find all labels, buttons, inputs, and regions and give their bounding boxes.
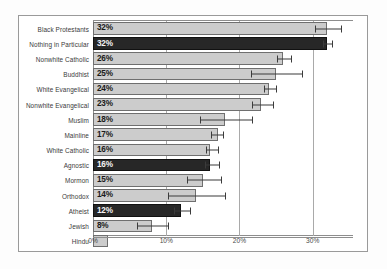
error-bar — [264, 89, 276, 90]
bar[interactable]: 24% — [93, 83, 269, 96]
bar-value-label: 25% — [97, 70, 113, 78]
x-tick-label: 20% — [233, 237, 246, 244]
category-label: Nonwhite Evangelical — [26, 101, 89, 108]
error-bar-cap-lower — [168, 192, 169, 199]
bar-row[interactable]: White Catholic16% — [93, 143, 369, 158]
error-bar-cap-lower — [211, 131, 212, 138]
x-tick-label: 10% — [160, 237, 173, 244]
bar-value-label: 32% — [97, 39, 113, 47]
error-bar — [206, 150, 218, 151]
bar-row[interactable]: Nonwhite Evangelical23% — [93, 97, 369, 112]
bar-row[interactable]: Orthodox14% — [93, 188, 369, 203]
error-bar-cap-upper — [221, 177, 222, 184]
category-label: Jewish — [69, 223, 89, 230]
bar-row[interactable]: Jewish8% — [93, 218, 369, 233]
bar-row[interactable]: Buddhist25% — [93, 67, 369, 82]
error-bar — [137, 226, 168, 227]
error-bar — [277, 58, 292, 59]
error-bar-cap-upper — [341, 25, 342, 32]
plot-wrapper: Black Protestants32%Nothing in Particula… — [19, 16, 367, 251]
error-bar — [211, 134, 223, 135]
error-bar-cap-lower — [137, 223, 138, 230]
error-bar-cap-upper — [252, 116, 253, 123]
bar-value-label: 15% — [97, 176, 113, 184]
error-bar — [168, 195, 225, 196]
error-bar — [252, 104, 273, 105]
bar-value-label: 14% — [97, 191, 113, 199]
category-label: Mainline — [64, 131, 89, 138]
bar-row[interactable]: Agnostic16% — [93, 158, 369, 173]
error-bar-cap-lower — [174, 207, 175, 214]
error-bar — [323, 43, 333, 44]
category-label: Nothing in Particular — [29, 40, 89, 47]
error-bar-cap-lower — [323, 40, 324, 47]
category-label: Nonwhite Catholic — [36, 55, 89, 62]
error-bar-cap-lower — [277, 55, 278, 62]
error-bar-cap-upper — [190, 207, 191, 214]
category-label: Agnostic — [64, 162, 89, 169]
x-tick-label: 30% — [306, 237, 319, 244]
error-bar-cap-upper — [273, 101, 274, 108]
bar[interactable]: 23% — [93, 98, 261, 111]
error-bar-cap-lower — [315, 25, 316, 32]
error-bar-cap-lower — [205, 162, 206, 169]
bar-row[interactable]: Mainline17% — [93, 127, 369, 142]
error-bar-cap-lower — [187, 177, 188, 184]
error-bar — [315, 28, 341, 29]
bar[interactable]: 17% — [93, 128, 218, 141]
bar-row[interactable]: Nothing in Particular32% — [93, 36, 369, 51]
error-bar — [174, 210, 189, 211]
bar-value-label: 32% — [97, 24, 113, 32]
bar[interactable]: 16% — [93, 159, 210, 172]
x-tick-label: 0% — [88, 237, 98, 244]
error-bar-cap-upper — [219, 162, 220, 169]
error-bar-cap-upper — [332, 40, 333, 47]
bar-value-label: 12% — [97, 207, 113, 215]
category-label: Orthodox — [62, 192, 89, 199]
bar-row[interactable]: Black Protestants32% — [93, 21, 369, 36]
error-bar-cap-lower — [200, 116, 201, 123]
bar-value-label: 23% — [97, 100, 113, 108]
error-bar-cap-upper — [223, 131, 224, 138]
chart-figure: Black Protestants32%Nothing in Particula… — [18, 15, 368, 252]
bar[interactable]: 25% — [93, 68, 276, 81]
error-bar-cap-upper — [276, 86, 277, 93]
bar[interactable]: 12% — [93, 204, 181, 217]
category-label: Mormon — [65, 177, 89, 184]
bar-row[interactable]: White Evangelical24% — [93, 82, 369, 97]
bar[interactable]: 32% — [93, 22, 327, 35]
error-bar-cap-upper — [218, 147, 219, 154]
error-bar — [251, 74, 302, 75]
error-bar-cap-upper — [168, 223, 169, 230]
category-label: Hindu — [72, 238, 89, 245]
category-label: White Catholic — [46, 147, 89, 154]
error-bar — [187, 180, 221, 181]
bar[interactable]: 26% — [93, 52, 283, 65]
bar[interactable]: 16% — [93, 144, 210, 157]
bar-value-label: 26% — [97, 55, 113, 63]
category-label: Atheist — [69, 207, 89, 214]
bar-value-label: 18% — [97, 115, 113, 123]
bar-row[interactable]: Mormon15% — [93, 173, 369, 188]
x-axis: 0%10%20%30% — [93, 237, 369, 251]
error-bar-cap-lower — [264, 86, 265, 93]
category-label: Black Protestants — [38, 25, 89, 32]
bar-value-label: 16% — [97, 161, 113, 169]
bar-value-label: 24% — [97, 85, 113, 93]
bar-row[interactable]: Nonwhite Catholic26% — [93, 51, 369, 66]
bar[interactable]: 32% — [93, 37, 327, 50]
error-bar — [200, 119, 252, 120]
error-bar-cap-upper — [225, 192, 226, 199]
error-bar — [205, 165, 219, 166]
bar-row[interactable]: Muslim18% — [93, 112, 369, 127]
bar-value-label: 8% — [97, 222, 108, 230]
error-bar-cap-upper — [291, 55, 292, 62]
bar-value-label: 16% — [97, 146, 113, 154]
error-bar-cap-lower — [251, 71, 252, 78]
bar-row[interactable]: Atheist12% — [93, 203, 369, 218]
error-bar-cap-upper — [302, 71, 303, 78]
category-label: Buddhist — [63, 71, 89, 78]
error-bar-cap-lower — [206, 147, 207, 154]
category-label: White Evangelical — [37, 86, 90, 93]
error-bar-cap-lower — [252, 101, 253, 108]
